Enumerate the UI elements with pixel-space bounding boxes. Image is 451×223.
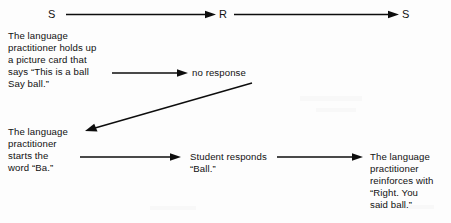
arrow-student-responds-to-reinforcement: [277, 153, 363, 161]
sr-sequence-diagram: S R S The language practitioner holds up…: [0, 0, 451, 223]
connector-layer: [0, 0, 451, 223]
arrow-prompt-card-to-no-response: [112, 69, 188, 77]
arrow-r-to-s: [234, 11, 399, 19]
arrow-no-response-to-prompt-ba: [85, 83, 252, 132]
arrow-s-to-r: [66, 11, 216, 19]
arrow-prompt-ba-to-student-responds: [80, 153, 181, 161]
